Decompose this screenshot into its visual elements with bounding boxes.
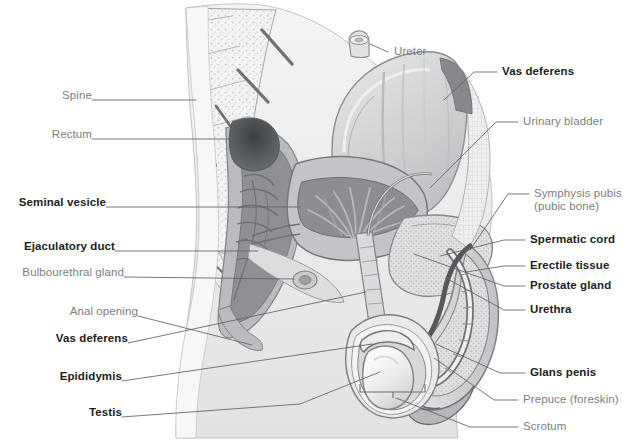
ureter-group <box>349 31 369 58</box>
label-spermatic-cord[interactable]: Spermatic cord <box>530 233 615 246</box>
label-prostate-gland[interactable]: Prostate gland <box>530 279 611 292</box>
label-vas-deferens-left[interactable]: Vas deferens <box>38 332 128 345</box>
label-epididymis[interactable]: Epididymis <box>42 370 122 383</box>
label-vas-deferens-right[interactable]: Vas deferens <box>502 65 574 78</box>
testis-shape <box>363 346 414 409</box>
label-symphysis-pubis[interactable]: Symphysis pubis <box>534 187 622 200</box>
label-anal-opening[interactable]: Anal opening <box>58 305 138 318</box>
label-ejaculatory-duct[interactable]: Ejaculatory duct <box>8 240 115 253</box>
label-bulbourethral-gland[interactable]: Bulbourethral gland <box>8 266 124 279</box>
label-testis[interactable]: Testis <box>82 406 122 419</box>
label-glans-penis[interactable]: Glans penis <box>530 366 596 379</box>
label-urinary-bladder[interactable]: Urinary bladder <box>523 115 603 128</box>
label-ureter[interactable]: Ureter <box>394 45 427 58</box>
label-pubic-bone[interactable]: (pubic bone) <box>534 200 599 213</box>
label-scrotum[interactable]: Scrotum <box>523 420 567 433</box>
label-seminal-vesicle[interactable]: Seminal vesicle <box>8 196 106 209</box>
label-urethra[interactable]: Urethra <box>530 303 572 316</box>
label-prepuce[interactable]: Prepuce (foreskin) <box>523 393 619 406</box>
label-spine[interactable]: Spine <box>14 89 92 102</box>
label-erectile-tissue[interactable]: Erectile tissue <box>530 259 609 272</box>
figure-canvas: Spine Rectum Seminal vesicle Ejaculatory… <box>0 0 623 441</box>
label-rectum[interactable]: Rectum <box>14 128 92 141</box>
